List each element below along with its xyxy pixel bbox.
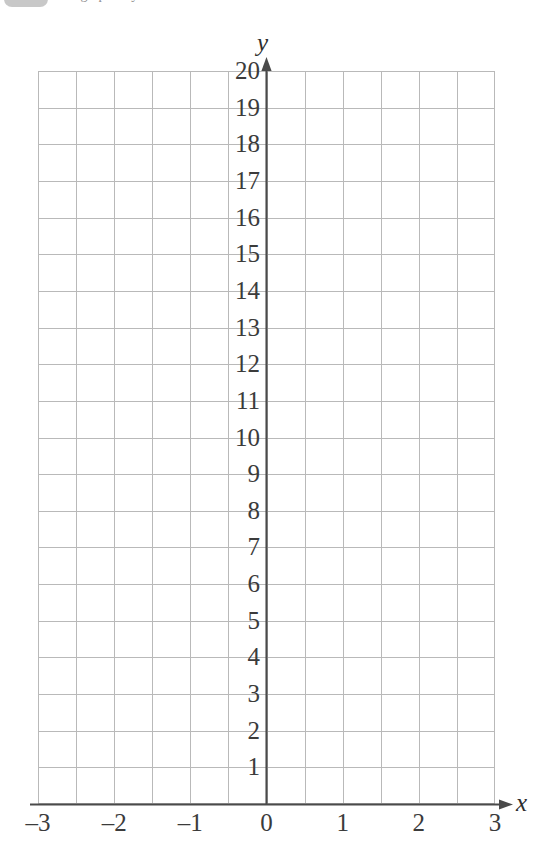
y-tick-label: 13 <box>18 315 260 340</box>
x-tick-label: –3 <box>8 810 68 835</box>
y-tick-label: 3 <box>18 681 260 706</box>
y-tick-label: 6 <box>18 571 260 596</box>
y-axis-label: y <box>257 30 268 55</box>
x-tick-label: 3 <box>465 810 525 835</box>
y-tick-label: 9 <box>18 461 260 486</box>
x-tick-label: 0 <box>237 810 297 835</box>
y-axis-arrowhead <box>261 57 271 71</box>
y-tick-label: 14 <box>18 278 260 303</box>
y-tick-label: 20 <box>18 58 260 83</box>
y-tick-label: 2 <box>18 718 260 743</box>
y-tick-label: 16 <box>18 205 260 230</box>
y-tick-label: 4 <box>18 644 260 669</box>
x-tick-label: –2 <box>84 810 144 835</box>
x-tick-label: –1 <box>160 810 220 835</box>
y-tick-label: 1 <box>18 754 260 779</box>
y-tick-label: 18 <box>18 131 260 156</box>
y-tick-label: 10 <box>18 425 260 450</box>
y-tick-label: 19 <box>18 95 260 120</box>
y-tick-label: 17 <box>18 168 260 193</box>
y-tick-label: 12 <box>18 351 260 376</box>
x-axis-arrowhead <box>499 799 513 809</box>
x-tick-label: 1 <box>313 810 373 835</box>
y-tick-label: 5 <box>18 608 260 633</box>
graph-page: the graph of y = y x 1234567891011121314… <box>0 0 543 858</box>
y-tick-label: 7 <box>18 534 260 559</box>
y-tick-label: 8 <box>18 498 260 523</box>
y-tick-label: 15 <box>18 241 260 266</box>
x-tick-label: 2 <box>389 810 449 835</box>
y-tick-label: 11 <box>18 388 260 413</box>
